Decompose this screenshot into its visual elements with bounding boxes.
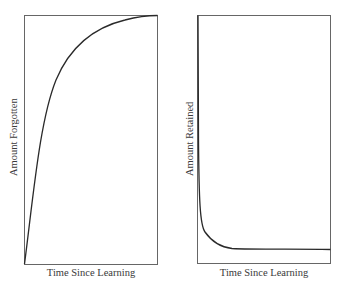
y-axis-label: Amount Retained [184,102,195,176]
x-axis-label: Time Since Learning [197,267,331,278]
chart-forgotten-plot [0,0,345,287]
forgetting-curve [25,16,158,265]
x-axis-label: Time Since Learning [24,267,158,278]
plot-frame [25,16,158,265]
y-axis-label: Amount Forgotten [8,98,19,176]
